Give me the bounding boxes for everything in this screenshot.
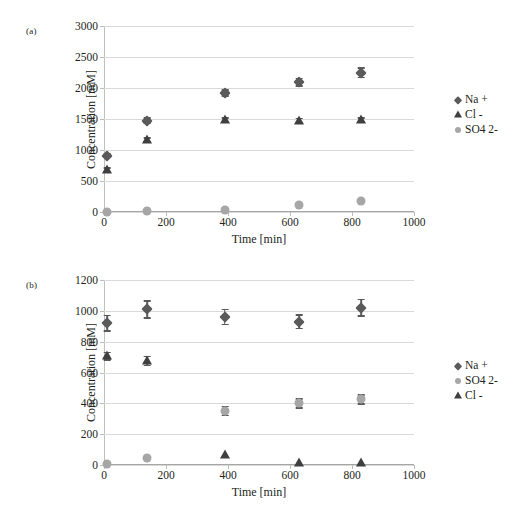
marker-circle-icon [455, 378, 461, 384]
y-axis-tick [100, 181, 104, 182]
gridline [104, 465, 414, 466]
legend-marker-circle-icon [452, 124, 463, 135]
y-axis-tick-label: 600 [81, 367, 98, 379]
y-axis-tick [100, 403, 104, 404]
marker-triangle-icon [356, 458, 366, 467]
marker-circle-icon [103, 460, 112, 469]
marker-triangle-icon [454, 110, 462, 117]
gridline [104, 342, 414, 343]
y-axis-tick-label: 1000 [75, 144, 98, 156]
legend-item[interactable]: SO4 2- [452, 122, 498, 137]
gridline [104, 181, 414, 182]
marker-triangle-icon [356, 115, 366, 124]
marker-circle-icon [220, 205, 229, 214]
gridline [104, 434, 414, 435]
y-axis-tick [100, 150, 104, 151]
legend-a: Na +Cl -SO4 2- [452, 92, 498, 137]
y-axis-tick [100, 88, 104, 89]
legend-marker-circle-icon [452, 375, 463, 386]
plot-area-b: Concentration [mM] Time [min] 0200400600… [104, 280, 414, 465]
legend-marker-diamond-icon [452, 94, 463, 105]
x-axis-tick-label: 200 [157, 469, 174, 481]
y-axis-tick-label: 3000 [75, 20, 98, 32]
marker-diamond-icon [454, 362, 462, 370]
marker-diamond-icon [294, 316, 305, 327]
y-axis-tick-label: 1000 [75, 305, 98, 317]
y-axis-tick-label: 200 [81, 428, 98, 440]
legend-item[interactable]: Na + [452, 358, 498, 373]
gridline [104, 57, 414, 58]
chart-panel-b: (b) Concentration [mM] Time [min] 020040… [0, 258, 530, 503]
marker-circle-icon [357, 197, 366, 206]
marker-triangle-icon [142, 134, 152, 143]
y-axis-tick [100, 373, 104, 374]
x-axis-tick-label: 0 [101, 216, 107, 228]
panel-label-b: (b) [26, 280, 37, 290]
marker-triangle-icon [102, 351, 112, 360]
legend-item[interactable]: Cl - [452, 388, 498, 403]
gridline [104, 26, 414, 27]
legend-label: Cl - [465, 107, 483, 122]
marker-circle-icon [143, 454, 152, 463]
marker-circle-icon [357, 395, 366, 404]
legend-label: SO4 2- [465, 122, 498, 137]
legend-marker-triangle-icon [452, 390, 463, 401]
legend-label: Na + [465, 358, 488, 373]
x-axis-tick-label: 1000 [403, 469, 426, 481]
figure-container: (a) Concentration [mM] Time [min] 050010… [0, 0, 530, 527]
marker-diamond-icon [219, 311, 230, 322]
legend-marker-diamond-icon [452, 360, 463, 371]
legend-item[interactable]: Cl - [452, 107, 498, 122]
marker-circle-icon [103, 207, 112, 216]
y-axis-tick-label: 2000 [75, 82, 98, 94]
figure-caption [8, 508, 522, 524]
legend-label: SO4 2- [465, 373, 498, 388]
y-axis-tick-label: 800 [81, 336, 98, 348]
x-axis-title-a: Time [min] [232, 232, 287, 247]
x-axis-tick-label: 0 [101, 469, 107, 481]
legend-item[interactable]: Na + [452, 92, 498, 107]
y-axis-tick-label: 400 [81, 397, 98, 409]
gridline [104, 373, 414, 374]
marker-circle-icon [295, 399, 304, 408]
panel-label-a: (a) [26, 26, 37, 36]
x-axis-tick-label: 400 [219, 216, 236, 228]
y-axis-tick [100, 434, 104, 435]
x-axis-tick-label: 600 [281, 216, 298, 228]
y-axis-tick [100, 342, 104, 343]
x-axis-title-b: Time [min] [232, 485, 287, 500]
marker-triangle-icon [142, 355, 152, 364]
marker-triangle-icon [220, 115, 230, 124]
marker-circle-icon [220, 407, 229, 416]
chart-panel-a: (a) Concentration [mM] Time [min] 050010… [0, 0, 530, 255]
marker-triangle-icon [102, 164, 112, 173]
gridline [104, 280, 414, 281]
y-axis-tick-label: 2500 [75, 51, 98, 63]
marker-triangle-icon [294, 458, 304, 467]
legend-marker-triangle-icon [452, 109, 463, 120]
y-axis-tick-label: 0 [92, 459, 98, 471]
legend-item[interactable]: SO4 2- [452, 373, 498, 388]
legend-b: Na +SO4 2-Cl - [452, 358, 498, 403]
marker-triangle-icon [220, 449, 230, 458]
marker-diamond-icon [142, 304, 153, 315]
marker-circle-icon [143, 207, 152, 216]
y-axis-tick-label: 1200 [75, 274, 98, 286]
gridline [104, 150, 414, 151]
x-axis-tick-label: 1000 [403, 216, 426, 228]
x-axis-tick-label: 600 [281, 469, 298, 481]
marker-circle-icon [455, 127, 461, 133]
marker-triangle-icon [294, 115, 304, 124]
marker-circle-icon [295, 201, 304, 210]
gridline [104, 88, 414, 89]
y-axis-tick [100, 311, 104, 312]
gridline [104, 403, 414, 404]
x-axis-tick-label: 800 [343, 216, 360, 228]
x-axis-tick-label: 200 [157, 216, 174, 228]
y-axis-tick [100, 119, 104, 120]
y-axis-tick-label: 1500 [75, 113, 98, 125]
legend-label: Cl - [465, 388, 483, 403]
y-axis-tick-label: 0 [92, 206, 98, 218]
y-axis-tick [100, 26, 104, 27]
legend-label: Na + [465, 92, 488, 107]
